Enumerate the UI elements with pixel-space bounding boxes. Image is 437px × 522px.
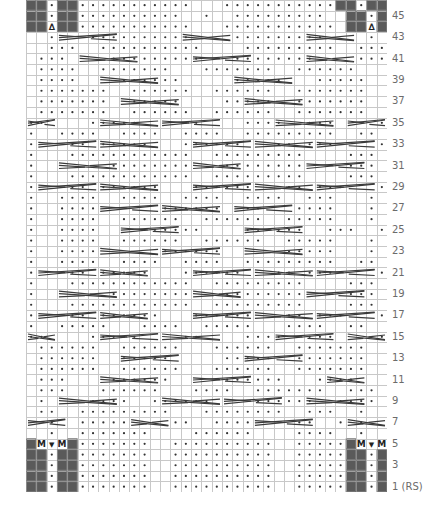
purl-dot: [298, 90, 300, 92]
purl-dot: [133, 132, 135, 134]
purl-dot: [319, 411, 321, 413]
purl-dot: [174, 165, 176, 167]
purl-dot: [133, 432, 135, 434]
purl-dot: [92, 432, 94, 434]
purl-dot: [71, 154, 73, 156]
purl-dot: [82, 207, 84, 209]
purl-dot: [257, 197, 259, 199]
purl-dot: [123, 346, 125, 348]
purl-dot: [236, 111, 238, 113]
purl-dot: [267, 304, 269, 306]
purl-dot: [164, 239, 166, 241]
purl-dot: [82, 368, 84, 370]
purl-dot: [30, 218, 32, 220]
purl-dot: [298, 25, 300, 27]
no-stitch-cell: [377, 481, 387, 492]
purl-dot: [350, 90, 352, 92]
purl-dot: [226, 389, 228, 391]
row-label: 15: [392, 332, 405, 342]
purl-dot: [102, 453, 104, 455]
purl-dot: [298, 400, 300, 402]
purl-dot: [82, 197, 84, 199]
purl-dot: [123, 261, 125, 263]
purl-dot: [257, 68, 259, 70]
purl-dot: [247, 25, 249, 27]
purl-dot: [350, 100, 352, 102]
purl-dot: [113, 4, 115, 6]
purl-dot: [133, 111, 135, 113]
no-stitch-cell: [356, 11, 366, 22]
purl-dot: [102, 411, 104, 413]
purl-dot: [92, 132, 94, 134]
row-label: 25: [392, 225, 405, 235]
row-label: 43: [392, 32, 405, 42]
purl-dot: [257, 453, 259, 455]
purl-dot: [174, 464, 176, 466]
purl-dot: [257, 58, 259, 60]
purl-dot: [319, 132, 321, 134]
purl-dot: [133, 443, 135, 445]
purl-dot: [319, 218, 321, 220]
purl-dot: [226, 325, 228, 327]
purl-dot: [195, 261, 197, 263]
purl-dot: [360, 132, 362, 134]
purl-dot: [154, 154, 156, 156]
no-stitch-cell: [57, 0, 67, 10]
purl-dot: [257, 346, 259, 348]
purl-dot: [350, 346, 352, 348]
purl-dot: [133, 389, 135, 391]
row-label: 11: [392, 375, 405, 385]
purl-dot: [360, 261, 362, 263]
purl-dot: [247, 453, 249, 455]
purl-dot: [144, 261, 146, 263]
purl-dot: [370, 304, 372, 306]
purl-dot: [30, 250, 32, 252]
purl-dot: [319, 197, 321, 199]
purl-dot: [82, 175, 84, 177]
purl-dot: [267, 261, 269, 263]
purl-dot: [164, 165, 166, 167]
purl-dot: [205, 239, 207, 241]
purl-dot: [174, 218, 176, 220]
purl-dot: [288, 165, 290, 167]
purl-dot: [164, 68, 166, 70]
purl-dot: [30, 261, 32, 263]
purl-dot: [339, 68, 341, 70]
no-stitch-cell: [377, 11, 387, 22]
purl-dot: [298, 304, 300, 306]
purl-dot: [267, 389, 269, 391]
purl-dot: [123, 4, 125, 6]
purl-dot: [154, 90, 156, 92]
purl-dot: [92, 411, 94, 413]
purl-dot: [329, 250, 331, 252]
purl-dot: [236, 25, 238, 27]
purl-dot: [216, 443, 218, 445]
purl-dot: [247, 154, 249, 156]
purl-dot: [257, 464, 259, 466]
purl-dot: [216, 282, 218, 284]
purl-dot: [216, 111, 218, 113]
purl-dot: [247, 4, 249, 6]
purl-dot: [133, 197, 135, 199]
purl-dot: [123, 175, 125, 177]
purl-dot: [144, 218, 146, 220]
purl-dot: [92, 207, 94, 209]
purl-dot: [247, 325, 249, 327]
purl-dot: [154, 132, 156, 134]
purl-dot: [298, 218, 300, 220]
purl-dot: [185, 304, 187, 306]
purl-dot: [298, 58, 300, 60]
cable-crossing: [80, 56, 138, 62]
purl-dot: [350, 357, 352, 359]
purl-dot: [61, 111, 63, 113]
purl-dot: [278, 379, 280, 381]
purl-dot: [82, 15, 84, 17]
purl-dot: [370, 453, 372, 455]
purl-dot: [102, 111, 104, 113]
purl-dot: [133, 68, 135, 70]
purl-dot: [185, 165, 187, 167]
purl-dot: [164, 36, 166, 38]
purl-dot: [71, 357, 73, 359]
purl-dot: [370, 261, 372, 263]
purl-dot: [298, 239, 300, 241]
